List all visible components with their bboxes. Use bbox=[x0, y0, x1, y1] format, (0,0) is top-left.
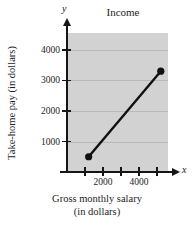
x-axis-title-line-2: (in dollars) bbox=[12, 205, 182, 218]
income-line-chart-figure: Income y x 4000 3000 2000 1000 2000 4000 bbox=[0, 0, 195, 235]
x-axis-title-line-1: Gross monthly salary bbox=[52, 193, 142, 204]
x-axis-title: Gross monthly salary (in dollars) bbox=[12, 192, 182, 218]
y-axis-title: Take-home pay (in dollars) bbox=[6, 28, 18, 178]
data-point-marker-end bbox=[157, 68, 164, 75]
data-point-marker-start bbox=[85, 153, 92, 160]
series-line-segment bbox=[89, 71, 161, 157]
